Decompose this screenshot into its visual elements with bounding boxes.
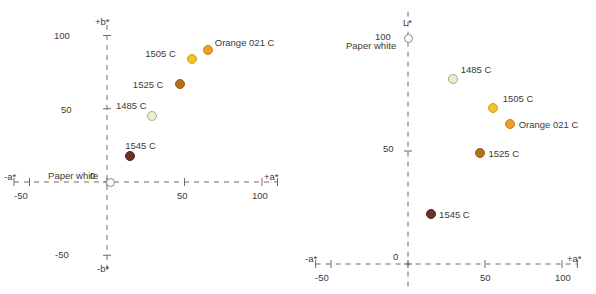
la-point-label-1: 1485 C <box>461 64 492 75</box>
la-point-dot-1[interactable] <box>448 74 458 84</box>
la-axis-label-minus-a: -a* <box>305 253 317 264</box>
ab-axis-label-minus-a: -a* <box>4 171 16 182</box>
ab-point-dot-2[interactable] <box>175 79 185 89</box>
ab-xtick-neg50: -50 <box>14 190 28 201</box>
ab-axis-label-plus-a: +a* <box>264 171 279 182</box>
ab-ytick-neg50: -50 <box>55 249 69 260</box>
ab-point-label-5: Paper white <box>48 170 98 181</box>
ab-point-label-3: 1485 C <box>116 100 147 111</box>
ab-point-dot-4[interactable] <box>125 151 135 161</box>
la-ytick-0: 0 <box>393 251 398 262</box>
figure-root: 100 50 0 -50 -50 50 100 +b* -b* -a* +a* … <box>0 0 596 294</box>
ab-point-label-2: 1525 C <box>133 79 164 90</box>
ab-ytick-50: 50 <box>61 104 72 115</box>
la-point-label-3: Orange 021 C <box>519 119 579 130</box>
la-point-dot-0[interactable] <box>404 34 413 43</box>
chart-L-a-axes <box>298 0 596 294</box>
ab-point-dot-0[interactable] <box>203 45 213 55</box>
ab-ytick-100: 100 <box>54 30 70 41</box>
ab-axis-label-minus-b: -b* <box>97 263 109 274</box>
la-point-label-4: 1525 C <box>488 148 519 159</box>
ab-xtick-50: 50 <box>177 190 188 201</box>
chart-ab-plane: 100 50 0 -50 -50 50 100 +b* -b* -a* +a* … <box>0 0 298 294</box>
ab-point-label-4: 1545 C <box>125 140 156 151</box>
ab-axis-label-plus-b: +b* <box>95 16 110 27</box>
ab-point-label-1: 1505 C <box>145 48 176 59</box>
ab-xtick-100: 100 <box>252 190 268 201</box>
la-point-label-0: Paper white <box>346 40 396 51</box>
la-point-dot-2[interactable] <box>488 103 498 113</box>
chart-L-a-plane: 100 50 0 -50 50 100 L* -a* +a* Paper whi… <box>298 0 596 294</box>
la-axis-label-L: L* <box>403 17 412 28</box>
la-point-label-5: 1545 C <box>439 209 470 220</box>
la-xtick-100: 100 <box>555 272 571 283</box>
la-point-dot-3[interactable] <box>505 119 515 129</box>
la-axis-label-plus-a: +a* <box>567 253 582 264</box>
la-point-label-2: 1505 C <box>503 93 534 104</box>
ab-point-label-0: Orange 021 C <box>215 37 275 48</box>
la-xtick-50: 50 <box>480 272 491 283</box>
la-ytick-50: 50 <box>383 143 394 154</box>
ab-point-dot-5[interactable] <box>106 178 115 187</box>
la-xtick-neg50: -50 <box>315 272 329 283</box>
ab-point-dot-3[interactable] <box>147 111 157 121</box>
